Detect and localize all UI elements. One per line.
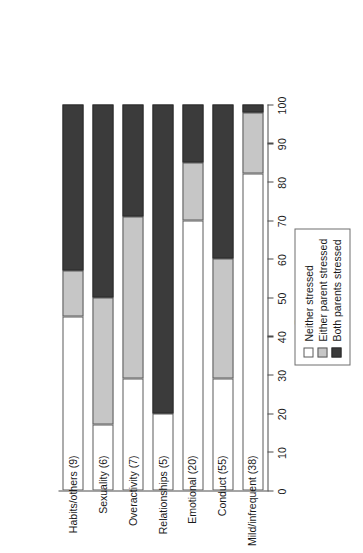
x-tick xyxy=(267,451,273,452)
bar-segment-either xyxy=(122,216,143,378)
bar-row xyxy=(242,104,263,490)
x-tick xyxy=(267,142,273,143)
x-tick xyxy=(267,335,273,336)
bar-segment-both xyxy=(152,104,173,413)
bar-row xyxy=(92,104,113,490)
legend-label-neither: Neither stressed xyxy=(302,265,314,341)
bar-segment-both xyxy=(122,104,143,216)
x-tick-label: 90 xyxy=(275,127,287,161)
x-tick-label: 80 xyxy=(275,165,287,199)
bar-segment-neither xyxy=(242,173,263,490)
x-tick-label: 10 xyxy=(275,435,287,469)
legend-label-either: Either parent stressed xyxy=(316,238,328,341)
category-label: Habits/others (9) xyxy=(66,455,78,553)
bar-segment-both xyxy=(92,104,113,297)
legend-label-both: Both parents stressed xyxy=(330,239,342,341)
legend: Neither stressed Either parent stressed … xyxy=(294,228,350,365)
category-label: Relationships (5) xyxy=(156,455,168,553)
bar-segment-either xyxy=(242,112,263,174)
x-tick-label: 50 xyxy=(275,281,287,315)
category-label: Emotional (20) xyxy=(185,455,197,553)
x-tick-label: 100 xyxy=(275,88,287,122)
bar-segment-either xyxy=(92,297,113,424)
rotated-figure-container: 0102030405060708090100 Habits/others (9)… xyxy=(0,0,363,553)
x-tick xyxy=(267,258,273,259)
x-tick-label: 40 xyxy=(275,320,287,354)
x-tick-label: 30 xyxy=(275,358,287,392)
stacked-bar-chart: 0102030405060708090100 Habits/others (9)… xyxy=(0,0,363,553)
x-tick-label: 20 xyxy=(275,397,287,431)
x-tick-label: 60 xyxy=(275,242,287,276)
bar-segment-both xyxy=(62,104,83,270)
x-tick xyxy=(267,297,273,298)
bar-segment-either xyxy=(212,258,233,378)
bar-row xyxy=(152,104,173,490)
x-tick xyxy=(267,374,273,375)
bar-segment-neither xyxy=(182,220,203,490)
x-tick xyxy=(267,181,273,182)
legend-swatch-neither-icon xyxy=(303,347,313,357)
bar-segment-both xyxy=(242,104,263,112)
legend-swatch-either-icon xyxy=(317,347,327,357)
bar-segment-either xyxy=(62,270,83,316)
bar-segment-both xyxy=(212,104,233,258)
legend-swatch-both-icon xyxy=(331,347,341,357)
x-tick xyxy=(267,220,273,221)
category-label: Overactivity (7) xyxy=(126,455,138,553)
category-label: Mild/infrequent (38) xyxy=(245,455,257,553)
bar-segment-either xyxy=(182,162,203,220)
bar-row xyxy=(122,104,143,490)
bar-row xyxy=(62,104,83,490)
bar-row xyxy=(182,104,203,490)
x-tick xyxy=(267,413,273,414)
bar-segment-both xyxy=(182,104,203,162)
legend-item-both: Both parents stressed xyxy=(329,238,343,357)
x-tick-label: 0 xyxy=(275,474,287,508)
bar-row xyxy=(212,104,233,490)
legend-item-either: Either parent stressed xyxy=(315,238,329,357)
category-label: Sexuality (6) xyxy=(96,455,108,553)
plot-area xyxy=(58,104,267,491)
x-tick-label: 70 xyxy=(275,204,287,238)
x-tick xyxy=(267,490,273,491)
category-label: Conduct (55) xyxy=(215,455,227,553)
legend-item-neither: Neither stressed xyxy=(301,238,315,357)
x-tick xyxy=(267,104,273,105)
